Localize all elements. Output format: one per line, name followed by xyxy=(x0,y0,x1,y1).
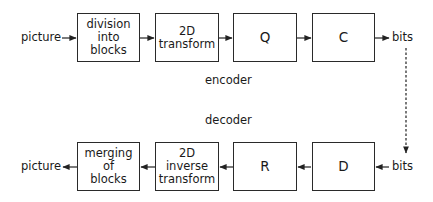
encoder-title: encoder xyxy=(205,74,252,87)
coder-block: C xyxy=(312,13,375,62)
2d-inverse-transform-block: 2D inverse transform xyxy=(155,142,219,191)
encoder-output-label: bits xyxy=(392,31,413,44)
decoder-input-label: bits xyxy=(392,160,413,173)
decoding-block: D xyxy=(312,142,375,191)
encoder-input-label: picture xyxy=(21,31,61,44)
division-into-blocks-block: division into blocks xyxy=(77,13,140,62)
reconstruction-block: R xyxy=(233,142,297,191)
merging-of-blocks-block: merging of blocks xyxy=(77,142,140,191)
quantizer-block: Q xyxy=(233,13,297,62)
2d-transform-block: 2D transform xyxy=(155,13,219,62)
decoder-output-label: picture xyxy=(21,160,61,173)
decoder-title: decoder xyxy=(205,114,252,127)
